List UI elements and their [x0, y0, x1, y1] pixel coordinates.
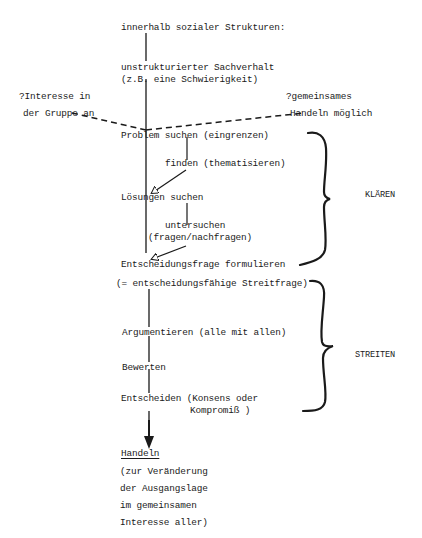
step-untersuchen: untersuchen — [165, 220, 225, 231]
situation-label: unstrukturierter Sachverhalt — [121, 62, 274, 73]
step-entscheiden: Entscheiden (Konsens oder — [121, 393, 258, 404]
step-loesungen-suchen: Lösungen suchen — [121, 192, 203, 203]
step-problem-suchen: Problem suchen (eingrenzen) — [121, 130, 269, 141]
result-line-4: Interesse aller) — [120, 517, 208, 528]
brace-streiten-icon — [303, 281, 333, 411]
step-finden: finden (thematisieren) — [165, 158, 285, 169]
precondition-action-line1: ?gemeinsames — [286, 91, 352, 102]
context-label: innerhalb sozialer Strukturen: — [121, 22, 285, 33]
step-entscheiden-detail: Kompromiß ) — [190, 405, 250, 416]
precondition-interest-line2: der Gruppe an — [23, 108, 94, 119]
situation-example: (z.B. eine Schwierigkeit) — [121, 74, 258, 85]
arrow-untersuchen-to-entscheidungsfrage — [152, 246, 186, 259]
precondition-action-line2: Handeln möglich — [290, 108, 372, 119]
step-untersuchen-detail: (fragen/nachfragen) — [148, 232, 252, 243]
precondition-interest-line1: ?Interesse in — [19, 91, 90, 102]
result-line-2: der Ausgangslage — [120, 483, 208, 494]
result-line-3: im gemeinsamen — [120, 500, 197, 511]
result-title-handeln: Handeln — [121, 448, 159, 459]
step-bewerten: Bewerten — [122, 362, 166, 373]
result-line-1: (zur Veränderung — [120, 466, 208, 477]
phase-label-klaeren: KLÄREN — [365, 190, 395, 201]
phase-label-streiten: STREITEN — [355, 350, 395, 361]
step-streitfrage: (= entscheidungsfähige Streitfrage) — [116, 278, 308, 289]
brace-klaeren-icon — [300, 133, 330, 265]
arrow-finden-to-loesungen — [152, 170, 186, 193]
step-argumentieren: Argumentieren (alle mit allen) — [122, 327, 286, 338]
step-entscheidungsfrage: Entscheidungsfrage formulieren — [121, 259, 285, 270]
precondition-dashed-lines — [72, 113, 304, 130]
